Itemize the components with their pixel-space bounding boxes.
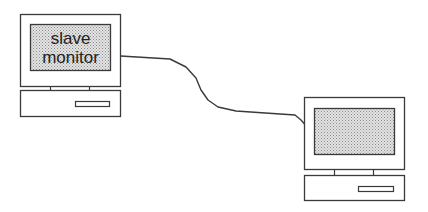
slave-label-line-1: slave — [51, 29, 91, 48]
diagram-canvas: slave monitor — [0, 0, 428, 212]
slave-drive-slot — [76, 102, 110, 107]
master-computer — [305, 98, 405, 201]
slave-computer: slave monitor — [21, 15, 121, 117]
connection-cable — [121, 56, 305, 124]
master-monitor-screen — [315, 109, 395, 155]
master-drive-slot — [359, 187, 394, 192]
slave-label-line-2: monitor — [42, 48, 99, 67]
